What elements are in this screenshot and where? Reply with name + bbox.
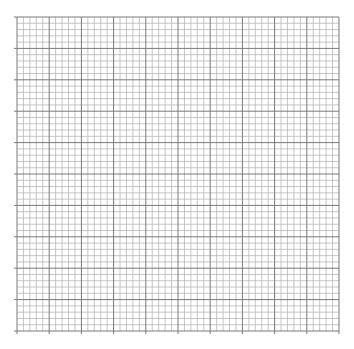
graph-paper-grid	[0, 0, 354, 349]
